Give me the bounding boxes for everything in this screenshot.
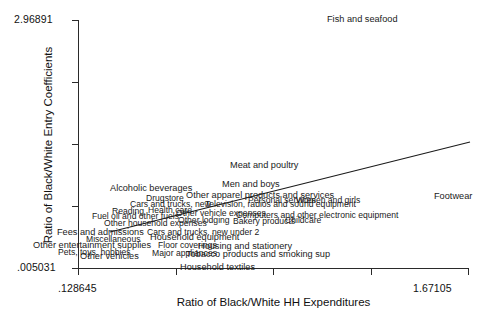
- point-label-other-lodging: Other lodging: [178, 216, 230, 225]
- point-label-childcare: Childcare: [285, 216, 321, 225]
- point-label-other-vehicles: Other vehicles: [80, 252, 139, 261]
- scatter-plot: 2.96891 .005031 .128645 1.67105 Ratio of…: [0, 0, 481, 318]
- point-label-tobacco-products: Tobacco products and smoking sup: [186, 250, 330, 259]
- point-label-men-and-boys: Men and boys: [222, 180, 280, 189]
- point-label-meat-and-poultry: Meat and poultry: [230, 161, 298, 170]
- point-label-footwear: Footwear: [434, 192, 472, 201]
- point-label-alcoholic-beverages: Alcoholic beverages: [110, 184, 192, 193]
- point-label-household-textiles: Household textiles: [180, 263, 255, 272]
- point-label-fish-and-seafood: Fish and seafood: [327, 15, 398, 24]
